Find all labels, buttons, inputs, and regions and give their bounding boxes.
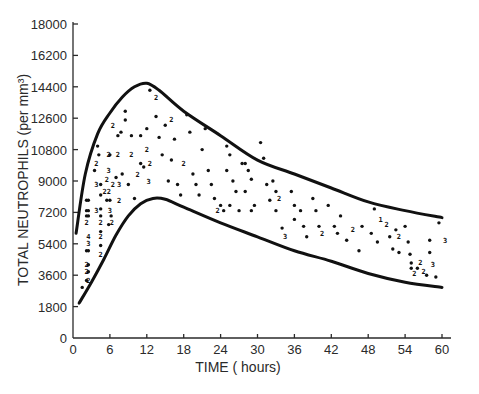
y-tick-label: 3600 <box>38 268 67 283</box>
data-point <box>191 172 194 175</box>
data-point <box>87 214 90 217</box>
data-point <box>434 275 437 278</box>
data-point <box>228 153 231 156</box>
x-axis-title: TIME ( hours) <box>195 359 281 375</box>
data-point-count: 2 <box>94 160 98 168</box>
y-axis-title: TOTAL NEUTROPHILS (per mm³) <box>15 74 31 286</box>
data-point-count: 2 <box>110 219 114 227</box>
data-point-count: 2 <box>116 151 120 159</box>
x-tick-label: 36 <box>287 342 301 357</box>
data-point-count: 2 <box>129 151 133 159</box>
data-point-count: 2 <box>86 277 90 285</box>
data-point <box>425 274 428 277</box>
data-point <box>268 198 271 201</box>
data-point <box>408 253 411 256</box>
data-point <box>311 197 314 200</box>
data-point <box>99 183 102 186</box>
data-point <box>200 148 203 151</box>
data-point-count: 3 <box>86 240 90 248</box>
y-tick-label: 0 <box>60 331 67 346</box>
data-point <box>403 225 406 228</box>
data-point <box>121 172 124 175</box>
data-point <box>105 198 108 201</box>
y-tick-label: 9000 <box>38 174 67 189</box>
x-tick-label: 42 <box>324 342 338 357</box>
data-point <box>160 153 163 156</box>
data-point <box>210 183 213 186</box>
data-point-count: 1 <box>378 216 382 224</box>
data-point <box>274 209 277 212</box>
data-point <box>87 270 90 273</box>
data-point-count: 2 <box>107 151 111 159</box>
scatter-points: 2223422223322322232232222222322222322122… <box>81 89 448 290</box>
data-point <box>99 230 102 233</box>
data-point <box>176 183 179 186</box>
data-point <box>265 183 268 186</box>
data-point <box>225 144 228 147</box>
data-point <box>124 118 127 121</box>
data-point <box>274 190 277 193</box>
data-point <box>253 204 256 207</box>
data-point-count: 3 <box>431 261 435 269</box>
data-point <box>250 209 253 212</box>
data-point-count: 3 <box>147 178 151 186</box>
y-tick-label: 16200 <box>31 48 67 63</box>
data-point <box>280 226 283 229</box>
data-point <box>96 144 99 147</box>
data-point <box>376 240 379 243</box>
data-point <box>99 214 102 217</box>
x-tick-label: 48 <box>361 342 375 357</box>
data-point-count: 2 <box>397 233 401 241</box>
data-point <box>164 123 167 126</box>
x-tick-label: 54 <box>398 342 412 357</box>
envelope-curves <box>76 83 442 303</box>
y-tick-label: 12600 <box>31 111 67 126</box>
data-point <box>124 110 127 113</box>
data-point <box>336 232 339 235</box>
data-point <box>293 218 296 221</box>
x-tick-label: 30 <box>250 342 264 357</box>
data-point-count: 2 <box>99 219 103 227</box>
data-point <box>116 134 119 137</box>
data-point <box>99 244 102 247</box>
data-point <box>213 197 216 200</box>
data-point <box>428 251 431 254</box>
data-point <box>299 209 302 212</box>
data-point <box>170 158 173 161</box>
data-point <box>406 240 409 243</box>
data-point <box>197 193 200 196</box>
data-point-count: 3 <box>107 167 111 175</box>
data-point <box>397 251 400 254</box>
data-point <box>357 249 360 252</box>
data-point-count: 2 <box>117 197 121 205</box>
data-point-count: 2 <box>111 122 115 130</box>
data-point <box>333 225 336 228</box>
data-point <box>317 225 320 228</box>
data-point <box>388 235 391 238</box>
data-point-count: 3 <box>108 207 112 215</box>
data-point-count: 2 <box>148 160 152 168</box>
data-point <box>81 286 84 289</box>
data-point <box>157 136 160 139</box>
data-point <box>108 198 111 201</box>
data-point <box>293 204 296 207</box>
data-point <box>428 239 431 242</box>
data-point <box>87 249 90 252</box>
data-point <box>360 225 363 228</box>
data-point <box>145 127 148 130</box>
x-tick-label: 24 <box>213 342 227 357</box>
data-point <box>119 130 122 133</box>
y-ticks: 0180036005400720090001080012600144001620… <box>31 17 78 346</box>
data-point-count: 2 <box>215 207 219 215</box>
data-point <box>259 141 262 144</box>
data-point-count: 3 <box>94 207 98 215</box>
x-tick-label: 0 <box>69 342 76 357</box>
lower-envelope-curve <box>79 198 442 303</box>
data-point <box>139 134 142 137</box>
data-point-count: 2 <box>418 259 422 267</box>
data-point <box>302 225 305 228</box>
data-point <box>148 89 151 92</box>
data-point-count: 2 <box>105 176 109 184</box>
data-point <box>237 209 240 212</box>
data-point <box>244 162 247 165</box>
